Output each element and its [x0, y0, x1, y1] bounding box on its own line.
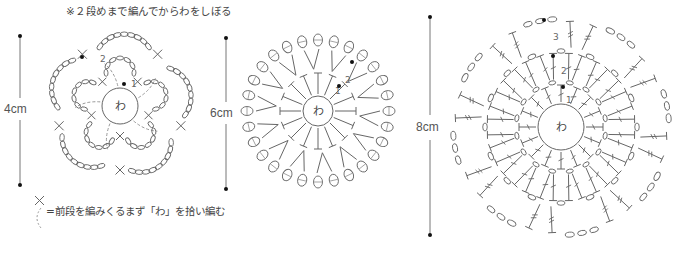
round-motif-medium-diagram: わ12: [241, 34, 395, 188]
legend-x-symbol-icon: [35, 196, 44, 228]
crochet-diagrams: わ12 わ12 わ123: [0, 0, 678, 255]
dimension-line-6cm: [224, 36, 228, 191]
round-number: 1: [566, 95, 572, 105]
round-motif-large-diagram: わ123: [450, 16, 671, 237]
round-number: 3: [553, 32, 559, 42]
center-ring-label: わ: [313, 105, 324, 118]
round-number: 1: [131, 79, 137, 89]
round-number: 2: [561, 66, 567, 76]
dimension-line-8cm: [428, 15, 432, 237]
center-ring-label: わ: [556, 121, 567, 134]
round-number: 2: [100, 54, 106, 64]
dimension-line-4cm: [18, 34, 22, 187]
flower-motif-diagram: わ12: [49, 32, 193, 175]
center-ring-label: わ: [115, 100, 126, 113]
round-number: 2: [345, 75, 351, 85]
